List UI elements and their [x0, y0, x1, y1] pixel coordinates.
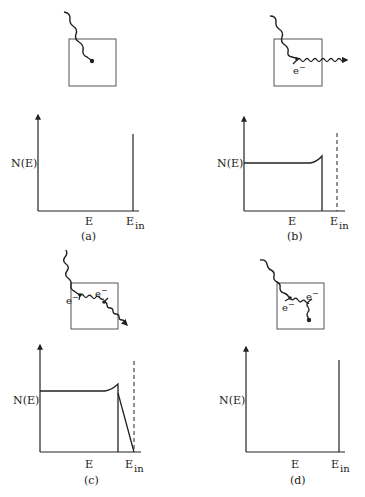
ein-sub: in	[135, 220, 145, 231]
e-sup: −	[72, 293, 79, 302]
panel-d	[246, 260, 345, 452]
caption-b: (b)	[287, 231, 303, 242]
caption-d: (d)	[290, 475, 306, 486]
caption-c: (c)	[84, 475, 99, 486]
y-axis-label-c: N(E)	[13, 395, 39, 406]
e-sup: −	[299, 63, 306, 72]
detector-inset-b	[270, 16, 347, 86]
ein-sub: in	[339, 220, 349, 231]
detector-box	[274, 39, 322, 86]
absorption-point-icon	[90, 59, 94, 63]
final-photon-track-icon	[307, 302, 309, 319]
panel-b	[244, 16, 347, 211]
electron-label-c-1: e−	[66, 296, 79, 306]
ein-main: E	[125, 458, 133, 471]
e-sup: −	[101, 286, 108, 295]
spectrum-graph-d	[246, 347, 345, 452]
spectrum-graph-c	[40, 345, 141, 452]
absorption-point-icon	[307, 318, 311, 322]
panel-c	[40, 250, 141, 452]
electron-label-d-2: e−	[306, 292, 319, 302]
panel-a	[38, 12, 139, 211]
spectrum-graph-b	[244, 117, 345, 211]
scattered-photon-2-icon	[104, 302, 127, 325]
ein-sub: in	[134, 463, 144, 474]
compton-continuum-curve	[40, 384, 118, 452]
ein-sub: in	[340, 463, 350, 474]
incident-energy-label-c: Ein	[125, 459, 144, 470]
incident-energy-label-a: Ein	[126, 216, 145, 227]
e-sup: −	[288, 300, 295, 309]
y-axis-label-d: N(E)	[219, 395, 245, 406]
y-axis-label-a: N(E)	[11, 158, 37, 169]
incident-photon-icon	[64, 250, 80, 295]
x-axis-label-d: E	[291, 459, 299, 470]
recoil-electron-track-icon	[293, 60, 297, 64]
incident-photon-icon	[260, 260, 289, 297]
ein-main: E	[126, 215, 134, 228]
ein-main: E	[330, 215, 338, 228]
electron-label-b: e−	[293, 66, 306, 76]
gamma-interaction-figure: N(E) E Ein (a) e− N(E) E Ein (b) e− e− N…	[0, 0, 365, 497]
electron-label-d-1: e−	[282, 303, 295, 313]
multiple-compton-region	[118, 393, 134, 452]
compton-continuum-curve	[244, 156, 322, 211]
incident-photon-icon	[64, 12, 92, 61]
detector-inset-a	[64, 12, 116, 86]
spectrum-graph-a	[38, 115, 139, 211]
x-axis-label-c: E	[85, 459, 93, 470]
caption-a: (a)	[81, 231, 96, 242]
incident-energy-label-d: Ein	[331, 459, 350, 470]
e-sup: −	[312, 289, 319, 298]
electron-label-c-2: e−	[95, 289, 108, 299]
y-axis-label-b: N(E)	[217, 158, 243, 169]
ein-main: E	[331, 458, 339, 471]
incident-energy-label-b: Ein	[330, 216, 349, 227]
x-axis-label-b: E	[288, 216, 296, 227]
x-axis-label-a: E	[85, 216, 93, 227]
figure-drawing	[0, 0, 365, 497]
